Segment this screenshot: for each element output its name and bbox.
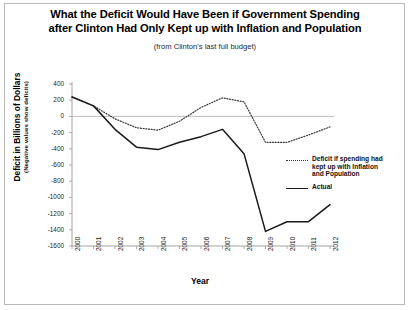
chart-legend: Deficit if spending hadkept up with Infl… (286, 155, 398, 198)
legend-item: Actual (286, 183, 398, 193)
legend-label-line: and Population (312, 170, 383, 178)
plot-area: Deficit in Billions of Dollars (Negative… (0, 0, 410, 310)
legend-dotted-line-icon (286, 157, 308, 165)
series-line-1 (72, 97, 330, 142)
chart-page: What the Deficit Would Have Been if Gove… (0, 0, 410, 310)
legend-solid-line-icon (286, 185, 308, 193)
legend-label: Deficit if spending hadkept up with Infl… (312, 155, 383, 178)
legend-label-line: Deficit if spending had (312, 155, 383, 163)
legend-item: Deficit if spending hadkept up with Infl… (286, 155, 398, 178)
legend-label-line: kept up with Inflation (312, 163, 383, 171)
legend-label-line: Actual (312, 183, 332, 191)
legend-label: Actual (312, 183, 332, 191)
